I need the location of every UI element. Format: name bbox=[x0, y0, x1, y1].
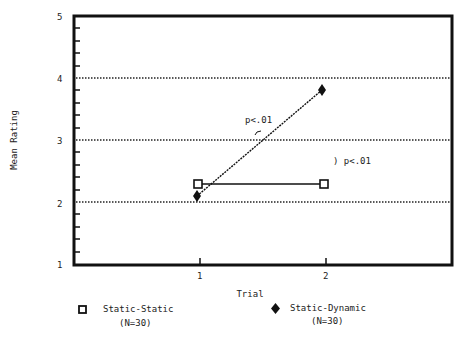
legend: Static-Static (N=30) Static-Dynamic (N=3… bbox=[0, 0, 465, 343]
legend-label: Static-Dynamic bbox=[290, 303, 366, 313]
legend-n: (N=30) bbox=[311, 316, 344, 326]
open-square-icon bbox=[78, 305, 88, 315]
legend-label: Static-Static bbox=[103, 304, 173, 314]
legend-n: (N=30) bbox=[119, 318, 152, 328]
filled-diamond-icon bbox=[270, 303, 281, 314]
